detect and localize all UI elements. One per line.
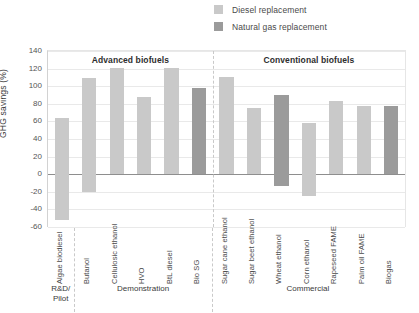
bar-palm-oil-fame [357,106,371,175]
x-tick-label-bio-sg: Bio SG [192,260,201,284]
y-tick-label-20: 20 [0,151,42,160]
bar-biogas [384,106,398,175]
phase-label-demonstration: Demonstration [74,284,211,294]
x-tick-label-palm-oil-fame: Palm oil FAME [357,234,366,284]
group-header-conventional-biofuels: Conventional biofuels [213,55,405,65]
legend-label-diesel: Diesel replacement [232,5,307,15]
phase-divider [74,228,76,312]
bar-btl-diesel [164,68,178,174]
x-axis-labels: Algae biodieselButanolCellulosic ethanol… [47,228,404,284]
x-tick-label-biogas: Biogas [384,260,393,284]
legend-label-natural-gas: Natural gas replacement [232,22,327,32]
y-tick-label--40: -40 [0,204,42,213]
x-tick-label-btl-diesel: BtL diesel [165,250,174,284]
phase-label-commercial: Commercial [212,284,404,294]
x-tick-label-hvo: HVO [137,267,146,284]
bar-negative-algae-biodiesel [55,174,69,220]
bar-butanol [82,78,96,174]
legend-swatch-diesel [214,5,223,14]
y-tick-label-0: 0 [0,169,42,178]
x-tick-label-cellulosic-ethanol: Cellulosic ethanol [110,223,119,284]
x-tick-label-rapeseed-fame: Rapeseed FAME [329,226,338,284]
x-tick-label-sugar-cane-ethanol: Sugar cane ethanol [220,217,229,284]
bar-negative-butanol [82,174,96,192]
bar-rapeseed-fame [329,101,343,174]
phase-label-r-d-: R&D/Pilot [47,284,74,304]
y-tick-label-120: 120 [0,63,42,72]
bar-sugar-cane-ethanol [219,77,233,174]
y-tick-label-100: 100 [0,81,42,90]
development-phase-band: R&D/PilotDemonstrationCommercial [47,284,404,312]
y-tick-label-60: 60 [0,116,42,125]
ghg-savings-bar-chart: Diesel replacement Natural gas replaceme… [0,0,419,313]
chart-legend: Diesel replacement Natural gas replaceme… [214,2,414,36]
bar-algae-biodiesel [55,118,69,174]
x-tick-label-corn-ethanol: Corn ethanol [302,240,311,284]
bar-sugar-beet-ethanol [247,108,261,174]
y-tick-label--20: -20 [0,186,42,195]
legend-swatch-natural-gas [214,22,223,31]
bar-cellulosic-ethanol [110,68,124,174]
y-tick-label-140: 140 [0,46,42,55]
bar-negative-corn-ethanol [302,174,316,196]
group-divider [213,51,215,227]
y-tick-label--60: -60 [0,222,42,231]
bar-series [48,51,405,227]
plot-area: Advanced biofuelsConventional biofuels [47,50,406,227]
legend-item-natural-gas: Natural gas replacement [214,19,414,34]
x-tick-label-butanol: Butanol [82,258,91,284]
x-tick-label-wheat-ethanol: Wheat ethanol [274,234,283,284]
phase-divider [212,228,214,312]
bar-bio-sg [192,88,206,174]
x-tick-label-algae-biodiesel: Algae biodiesel [55,232,64,284]
y-tick-label-40: 40 [0,134,42,143]
legend-item-diesel: Diesel replacement [214,2,414,17]
x-tick-label-sugar-beet-ethanol: Sugar beet ethanol [247,219,256,284]
group-header-advanced-biofuels: Advanced biofuels [48,55,213,65]
bar-wheat-ethanol [274,95,288,174]
y-tick-label-80: 80 [0,98,42,107]
bar-negative-wheat-ethanol [274,174,288,185]
bar-hvo [137,97,151,174]
bar-corn-ethanol [302,123,316,174]
